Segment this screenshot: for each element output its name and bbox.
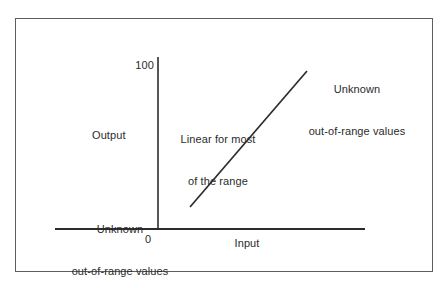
annotation-linear-range-line2: of the range	[172, 174, 264, 188]
y-axis-label: Output	[92, 128, 126, 142]
annotation-low-out-of-range-line1: Unknown	[55, 222, 185, 236]
figure-container: 100 Output 0 Input Linear for most of th…	[0, 0, 448, 288]
annotation-linear-range: Linear for most of the range	[172, 104, 264, 216]
y-axis-tick-100: 100	[120, 58, 154, 72]
annotation-low-out-of-range: Unknown out-of-range values	[55, 194, 185, 288]
annotation-high-out-of-range-line1: Unknown	[300, 82, 414, 96]
annotation-high-out-of-range-line2: out-of-range values	[300, 124, 414, 138]
x-axis-label: Input	[225, 236, 269, 250]
annotation-low-out-of-range-line2: out-of-range values	[55, 264, 185, 278]
annotation-high-out-of-range: Unknown out-of-range values	[300, 54, 414, 166]
annotation-linear-range-line1: Linear for most	[172, 132, 264, 146]
